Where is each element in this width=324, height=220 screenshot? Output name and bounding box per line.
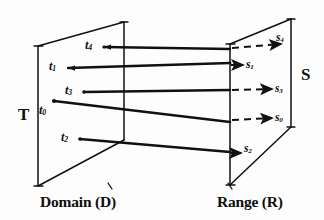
- mapping-t0-s0: [52, 99, 272, 122]
- point-label-t1: t1: [49, 60, 56, 73]
- range-plane-corner-ticks: [226, 19, 295, 185]
- point-label-t3: t3: [65, 84, 72, 97]
- diagram-canvas: t4 t1 t3 t0 t2 s4 s1 s3 s0 s2 T S Domain…: [0, 0, 324, 220]
- set-label-S: S: [301, 66, 310, 83]
- point-label-t2: t2: [61, 131, 68, 144]
- mapping-t3-s3: [82, 89, 272, 94]
- point-label-t0: t0: [39, 104, 46, 117]
- point-label-s1: s1: [246, 59, 254, 71]
- mapping-t4-s4: [102, 44, 281, 50]
- mapping-t1-s1: [68, 62, 243, 71]
- point-label-s0: s0: [275, 112, 283, 124]
- point-label-t4: t4: [85, 39, 92, 52]
- point-label-s2: s2: [244, 143, 252, 155]
- point-label-s3: s3: [275, 83, 283, 95]
- caption-domain: Domain (D): [40, 194, 116, 210]
- set-label-T: T: [18, 106, 29, 123]
- point-label-s4: s4: [276, 32, 284, 44]
- caption-range: Range (R): [217, 194, 283, 210]
- caption-tick-marks: [108, 183, 232, 189]
